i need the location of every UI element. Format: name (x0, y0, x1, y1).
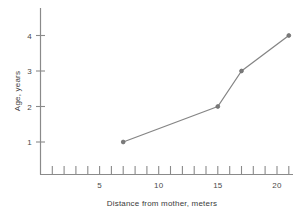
y-tick-label-4: 4 (27, 32, 32, 41)
y-tick-label-3: 3 (27, 67, 32, 76)
x-tick-label-15: 15 (213, 181, 223, 190)
x-tick-label-5: 5 (97, 181, 102, 190)
data-point-3 (240, 69, 244, 73)
y-tick-label-1: 1 (27, 138, 32, 147)
x-tick-label-20: 20 (272, 181, 282, 190)
x-axis-ticks (52, 166, 288, 175)
data-point-1 (121, 140, 125, 144)
data-point-2 (216, 105, 220, 109)
y-axis-title: Age, years (13, 71, 22, 111)
line-chart: 1 2 3 4 5 10 15 20 Age, (0, 0, 295, 214)
data-point-4 (287, 34, 291, 38)
x-tick-label-10: 10 (154, 181, 164, 190)
x-axis-title: Distance from mother, meters (107, 199, 218, 208)
y-tick-label-2: 2 (27, 103, 32, 112)
